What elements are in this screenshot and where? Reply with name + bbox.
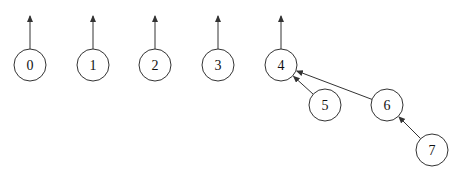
node-label: 0 [27,58,34,73]
node-4: 4 [265,49,297,81]
edge-5-to-4 [294,76,314,94]
node-3: 3 [202,49,234,81]
node-7: 7 [416,134,448,166]
node-label: 5 [322,98,329,113]
node-0: 0 [14,49,46,81]
node-2: 2 [139,49,171,81]
edge-7-to-6 [399,117,421,139]
node-label: 6 [384,98,391,113]
node-label: 4 [278,58,285,73]
node-label: 3 [215,58,222,73]
node-label: 7 [429,143,436,158]
node-6: 6 [371,89,403,121]
node-1: 1 [77,49,109,81]
node-label: 2 [152,58,159,73]
node-5: 5 [309,89,341,121]
root-arrows [30,16,281,49]
nodes: 01234567 [14,49,448,166]
node-label: 1 [90,58,97,73]
union-find-diagram: 01234567 [0,0,465,176]
